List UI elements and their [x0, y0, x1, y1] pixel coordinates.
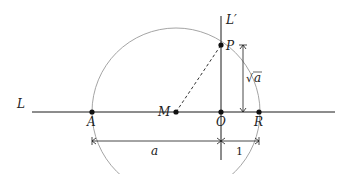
point-o-label: O — [216, 115, 226, 129]
dimension-a-label: a — [151, 144, 158, 158]
line-l-label: L — [16, 97, 25, 111]
sqrt-a-variable: a — [254, 71, 261, 85]
point-r-label: R — [253, 115, 263, 129]
dimension-sqrt-a: √ a — [239, 45, 262, 112]
dimension-bottom: a 1 — [92, 137, 259, 158]
sqrt-a-radical: √ — [246, 72, 254, 85]
point-o — [218, 109, 223, 114]
point-m — [173, 109, 178, 114]
point-m-label: M — [157, 105, 171, 119]
line-l-prime-label: L′ — [225, 13, 237, 27]
point-r — [256, 109, 261, 114]
segment-mp-dashed — [176, 45, 221, 112]
dimension-one-label: 1 — [236, 145, 243, 158]
point-p-label: P — [225, 39, 235, 53]
circle-centered-m — [92, 28, 260, 174]
sqrt-construction-diagram: L L′ √ a a 1 A M O R P — [0, 0, 350, 174]
point-p — [218, 42, 223, 47]
point-a — [89, 109, 94, 114]
point-a-label: A — [86, 115, 96, 129]
